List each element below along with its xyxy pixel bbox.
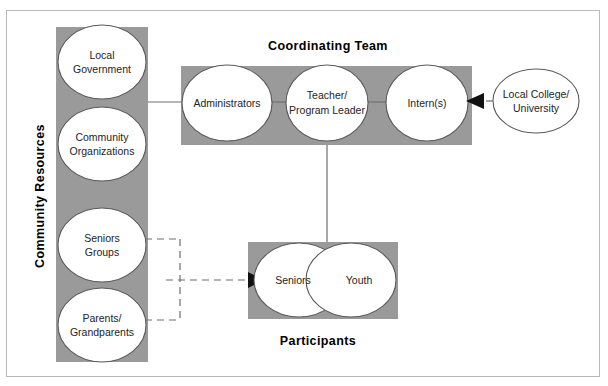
node-label-line2: Government (73, 63, 131, 75)
node-label-line1: Administrators (193, 97, 260, 109)
node-seniors-groups[interactable]: Seniors Groups (58, 208, 146, 282)
node-local-government[interactable]: Local Government (58, 25, 146, 99)
node-label-line2: Organizations (70, 145, 135, 157)
node-administrators[interactable]: Administrators (182, 65, 272, 141)
node-community-organizations[interactable]: Community Organizations (58, 107, 146, 181)
diagram-canvas: Local Government Community Organizations… (0, 0, 608, 386)
node-label-line1: Local College/ (503, 88, 570, 100)
node-label-youth-participant: Youth (346, 274, 373, 286)
org-diagram: Local Government Community Organizations… (0, 0, 608, 386)
participants-title: Participants (280, 334, 356, 348)
node-interns[interactable]: Intern(s) (386, 65, 468, 141)
node-label-line1: Community (75, 131, 129, 143)
coordinating-team-title: Coordinating Team (268, 39, 388, 53)
node-parents-grandparents[interactable]: Parents/ Grandparents (58, 288, 146, 362)
node-label-line1: Seniors (84, 232, 120, 244)
node-label-line1: Local (89, 49, 114, 61)
node-label-line1: Parents/ (82, 312, 121, 324)
node-label-line2: Program Leader (289, 104, 365, 116)
node-label-line1: Intern(s) (407, 97, 446, 109)
node-label-seniors-participant: Seniors (275, 274, 311, 286)
node-label-line2: University (513, 102, 560, 114)
node-label-line2: Groups (85, 246, 119, 258)
node-label-line1: Teacher/ (307, 89, 347, 101)
node-label-line2: Grandparents (70, 326, 134, 338)
node-teacher-program-leader[interactable]: Teacher/ Program Leader (286, 65, 368, 141)
community-resources-title: Community Resources (33, 124, 47, 268)
node-local-college-university[interactable]: Local College/ University (493, 69, 579, 133)
